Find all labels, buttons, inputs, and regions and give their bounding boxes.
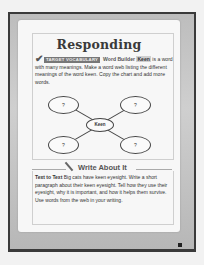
web-node: ? — [48, 96, 79, 114]
web-node: ? — [48, 136, 79, 154]
checkmark-icon: ✔ — [35, 56, 43, 62]
keyword-highlight: Keen — [136, 56, 150, 62]
web-node: ? — [120, 96, 151, 114]
word-web: ? ? Keen ? ? — [48, 96, 158, 154]
target-vocabulary-badge: TARGET VOCABULARY — [44, 57, 100, 63]
word-builder-heading: Word Builder — [103, 56, 135, 62]
web-center: Keen — [86, 118, 114, 132]
write-paragraph: Text to Text Big cats have keen eyesight… — [35, 174, 171, 204]
divider — [32, 169, 66, 170]
page-marker-icon — [178, 243, 182, 247]
web-node: ? — [120, 136, 151, 154]
page-title: Responding — [18, 37, 180, 52]
text-to-text-label: Text to Text — [35, 174, 62, 180]
divider — [136, 169, 172, 170]
vocab-paragraph: ✔TARGET VOCABULARYWord Builder Keen is a… — [35, 56, 173, 86]
page: Responding ✔TARGET VOCABULARYWord Builde… — [18, 20, 180, 232]
